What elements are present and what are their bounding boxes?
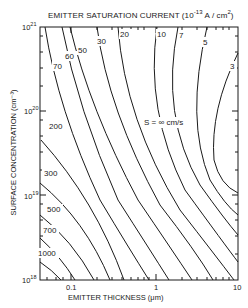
label-70: 70: [53, 62, 62, 71]
label-50: 50: [78, 46, 87, 55]
label-1000: 1000: [38, 249, 56, 258]
label-5: 5: [203, 38, 208, 47]
contour-3: [214, 53, 239, 193]
contour-500: [40, 215, 94, 280]
contour-20: [118, 27, 234, 280]
label-3: 3: [230, 62, 235, 71]
label-200: 200: [49, 122, 63, 131]
label-7: 7: [179, 31, 184, 40]
plot-frame: [40, 27, 238, 280]
contour-60: [62, 27, 169, 280]
label-20: 20: [120, 30, 129, 39]
contour-10: [154, 27, 238, 262]
label-10: 10: [157, 30, 166, 39]
label-300: 300: [44, 169, 58, 178]
label-60: 60: [65, 52, 74, 61]
contour-7: [172, 27, 238, 235]
label-30: 30: [97, 37, 106, 46]
label-500: 500: [47, 205, 61, 214]
label-700: 700: [43, 226, 57, 235]
annotation-s-infinity: S = ∞ cm/s: [144, 118, 183, 127]
contour-labels: 1000 700 500 300 200 70 60 50 30 20 10 7…: [36, 29, 237, 258]
contour-1000: [40, 262, 61, 280]
contour-50: [70, 27, 192, 280]
contour-plot: 1000 700 500 300 200 70 60 50 30 20 10 7…: [0, 0, 248, 308]
contour-5: [197, 27, 238, 215]
